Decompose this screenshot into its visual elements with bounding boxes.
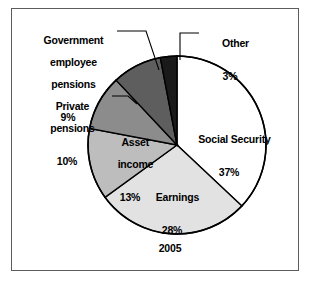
- slice-label-earnings-line1: Earnings: [156, 191, 199, 203]
- slice-label-other: Other 3%: [202, 27, 258, 103]
- slice-label-private-pensions-line1: Private: [56, 100, 90, 112]
- slice-label-government-pensions-line3: pensions: [51, 78, 96, 90]
- slice-label-government-pensions-line1: Government: [44, 34, 104, 46]
- chart-caption-year: 2005: [140, 243, 200, 254]
- slice-label-asset-income-line1: Asset: [121, 136, 149, 148]
- slice-label-other-line1: Other: [222, 37, 249, 49]
- slice-value-earnings: 28%: [139, 225, 205, 236]
- slice-label-asset-income-line2: income: [118, 158, 154, 170]
- slice-value-other: 3%: [202, 71, 258, 82]
- pie-chart-figure: Government employee pensions 9% Private …: [0, 0, 309, 281]
- slice-label-private-pensions-line2: pensions: [50, 122, 95, 134]
- slice-value-asset-income: 13%: [101, 192, 159, 203]
- slice-label-asset-income: Asset income 13%: [101, 126, 159, 225]
- slice-label-government-pensions-line2: employee: [50, 56, 97, 68]
- slice-label-social-security-line1: Social Security: [198, 133, 270, 145]
- slice-value-social-security: 37%: [182, 167, 276, 178]
